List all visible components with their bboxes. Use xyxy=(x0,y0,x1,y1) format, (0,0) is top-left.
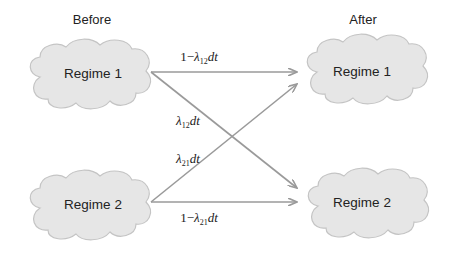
arrow-r1-to-r2 xyxy=(151,72,297,188)
before-header: Before xyxy=(73,12,111,27)
arrow-r2-to-r1 xyxy=(151,84,297,202)
node-after-regime1: Regime 1 xyxy=(333,64,391,79)
rate-stay-regime1: 1−λ12dt xyxy=(180,49,218,66)
rate-stay-regime2: 1−λ21dt xyxy=(180,210,218,227)
rate-regime2-to-regime1: λ21dt xyxy=(176,151,200,168)
node-after-regime2: Regime 2 xyxy=(333,195,391,210)
after-header: After xyxy=(349,12,376,27)
rate-regime1-to-regime2: λ12dt xyxy=(176,113,200,130)
node-before-regime2: Regime 2 xyxy=(64,197,122,212)
diagram-canvas xyxy=(0,0,449,253)
node-before-regime1: Regime 1 xyxy=(64,66,122,81)
